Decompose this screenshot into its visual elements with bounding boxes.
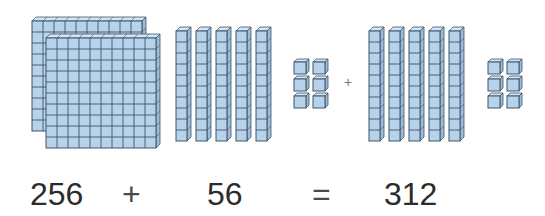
tens-rod: [236, 27, 251, 141]
plus-sign: +: [122, 176, 141, 212]
base-ten-addition-diagram: + 256 + 56 = 312: [0, 0, 545, 216]
addend-1: 256: [30, 176, 83, 212]
sum-result: 312: [384, 176, 437, 212]
tens-rod: [256, 27, 271, 141]
hundreds-flat-front: [46, 34, 160, 148]
base-ten-blocks: [0, 0, 545, 170]
ones-unit: [488, 59, 503, 74]
ones-unit: [313, 76, 328, 91]
ones-unit: [313, 93, 328, 108]
ones-unit: [488, 93, 503, 108]
blocks-plus-sign: +: [344, 75, 352, 89]
ones-unit: [507, 76, 522, 91]
ones-unit: [507, 59, 522, 74]
equals-sign: =: [312, 176, 331, 212]
tens-rod: [389, 27, 404, 141]
ones-unit: [294, 93, 309, 108]
ones-unit: [507, 93, 522, 108]
ones-unit: [294, 59, 309, 74]
tens-rod: [449, 27, 464, 141]
tens-rod: [369, 27, 384, 141]
ones-unit: [488, 76, 503, 91]
tens-rod: [196, 27, 211, 141]
tens-rod: [176, 27, 191, 141]
tens-rod: [429, 27, 444, 141]
ones-unit: [294, 76, 309, 91]
tens-rod: [216, 27, 231, 141]
addend-2: 56: [207, 176, 243, 212]
tens-rod: [409, 27, 424, 141]
ones-unit: [313, 59, 328, 74]
